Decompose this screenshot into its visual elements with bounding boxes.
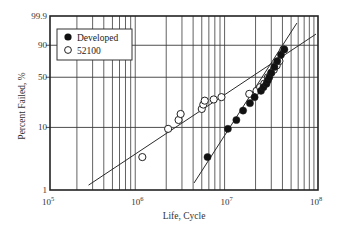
open-circle-marker — [218, 94, 225, 101]
x-axis-title: Life, Cycle — [163, 211, 206, 221]
legend-filled-circle-icon — [64, 33, 71, 40]
y-axis-title: Percent Failed, % — [17, 72, 27, 139]
legend-label-52100: 52100 — [77, 46, 101, 56]
filled-circle-marker — [281, 46, 288, 53]
x-tick-label: 107 — [221, 195, 234, 207]
legend-label-developed: Developed — [77, 33, 118, 43]
filled-circle-marker — [251, 94, 258, 101]
filled-circle-marker — [274, 57, 281, 64]
open-circle-marker — [139, 153, 146, 160]
y-tick-label: 99.9 — [31, 11, 47, 21]
open-circle-marker — [210, 96, 217, 103]
y-tick-label: 1 — [43, 185, 48, 195]
legend: Developed 52100 — [57, 29, 132, 60]
x-axis-ticks: 105106107108 — [42, 195, 322, 207]
open-circle-marker — [177, 110, 184, 117]
filled-circle-marker — [239, 107, 246, 114]
weibull-chart: 110509099.9 105106107108 Life, Cycle Per… — [0, 0, 342, 231]
y-tick-label: 10 — [38, 122, 48, 132]
filled-circle-marker — [204, 153, 211, 160]
filled-circle-marker — [224, 125, 231, 132]
filled-circle-marker — [246, 100, 253, 107]
legend-open-circle-icon — [65, 47, 72, 54]
y-tick-label: 50 — [38, 72, 48, 82]
x-tick-label: 106 — [131, 195, 144, 207]
y-tick-label: 90 — [38, 40, 48, 50]
x-tick-label: 108 — [310, 195, 322, 207]
filled-circle-marker — [233, 116, 240, 123]
data-points — [139, 46, 288, 161]
x-tick-label: 105 — [42, 195, 54, 207]
open-circle-marker — [201, 97, 208, 104]
open-circle-marker — [165, 125, 172, 132]
y-axis-ticks: 110509099.9 — [31, 11, 47, 195]
